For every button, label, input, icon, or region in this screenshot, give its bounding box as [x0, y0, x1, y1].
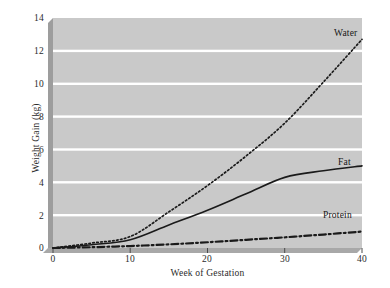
- y-tick-label-2: 2: [18, 211, 44, 221]
- x-axis-title: Week of Gestation: [53, 268, 362, 278]
- x-tick-label-30: 30: [270, 254, 300, 264]
- y-tick-label-6: 6: [18, 145, 44, 155]
- series-label-fat: Fat: [338, 157, 351, 167]
- plot-area: [0, 0, 390, 288]
- plot-bottom-bevel: [43, 248, 362, 253]
- series-label-water: Water: [334, 28, 357, 38]
- x-tick-label-20: 20: [192, 254, 222, 264]
- series-label-protein: Protein: [323, 210, 352, 220]
- x-tick-label-10: 10: [115, 254, 145, 264]
- y-tick-label-10: 10: [18, 79, 44, 89]
- x-tick-label-40: 40: [347, 254, 377, 264]
- plot-background: [53, 18, 362, 248]
- y-tick-label-4: 4: [18, 178, 44, 188]
- gestation-weight-gain-chart: Weight Gain (kg) 14 12 10 8 6 4 2 0 0 10…: [0, 0, 390, 288]
- y-tick-label-12: 12: [18, 46, 44, 56]
- x-tick-label-0: 0: [38, 254, 68, 264]
- plot-left-bevel: [48, 18, 53, 248]
- y-tick-label-0: 0: [18, 243, 44, 253]
- y-tick-label-8: 8: [18, 112, 44, 122]
- y-tick-label-14: 14: [18, 13, 44, 23]
